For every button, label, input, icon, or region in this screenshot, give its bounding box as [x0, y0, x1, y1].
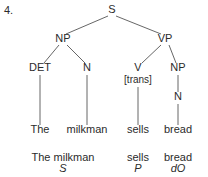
- node-det: DET: [29, 61, 51, 73]
- branch-s-vp: [116, 16, 161, 34]
- node-v-feature-trans: [trans]: [124, 74, 152, 85]
- tree-leaves: The milkman sells bread: [31, 123, 193, 135]
- node-np-subject: NP: [55, 32, 70, 44]
- node-n-object: N: [174, 90, 182, 102]
- branch-vp-v: [142, 45, 161, 63]
- leaf-word: milkman: [67, 123, 108, 135]
- syntax-tree-canvas: 4. S NP VP DET N V [trans] NP N: [0, 0, 208, 177]
- branch-s-np: [66, 16, 108, 34]
- node-n-subject: N: [83, 61, 91, 73]
- leaf-word: bread: [164, 123, 192, 135]
- gloss-row: The milkman S sells P bread dO: [32, 151, 193, 174]
- gloss-role: S: [59, 162, 67, 174]
- syntax-tree-figure: 4. S NP VP DET N V [trans] NP N: [0, 0, 208, 177]
- node-vp: VP: [158, 32, 173, 44]
- leaf-word: sells: [127, 123, 150, 135]
- node-s: S: [108, 3, 115, 15]
- leaf-word: The: [31, 123, 50, 135]
- node-np-object: NP: [170, 61, 185, 73]
- gloss-role: P: [134, 162, 142, 174]
- item-number: 4.: [4, 4, 13, 16]
- gloss-role: dO: [171, 162, 186, 174]
- node-v: V: [134, 61, 142, 73]
